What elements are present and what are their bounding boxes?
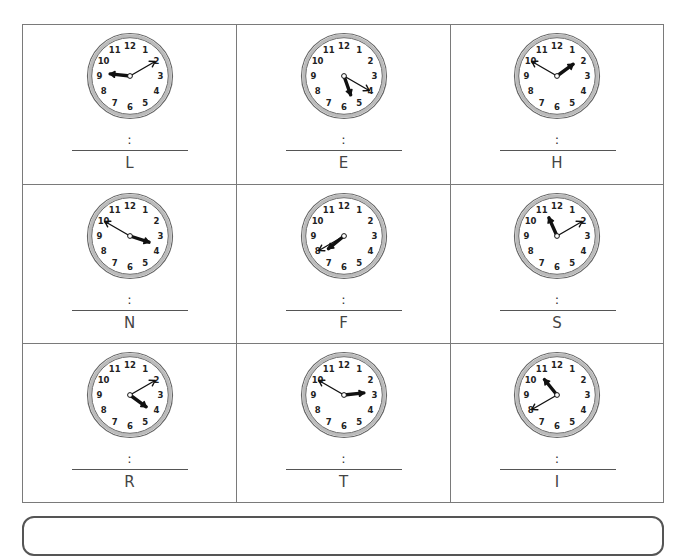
dial-number: 7: [111, 258, 117, 268]
dial-number: 12: [551, 360, 563, 370]
dial-number: 2: [580, 56, 586, 66]
answer-line[interactable]: [72, 310, 188, 311]
dial-number: 5: [356, 258, 362, 268]
clock-letter: L: [23, 154, 236, 172]
clock-cell: 121234567891011 : S: [451, 185, 663, 344]
answer-line[interactable]: [72, 469, 188, 470]
dial-number: 4: [153, 405, 159, 415]
dial-number: 10: [311, 56, 323, 66]
dial-number: 4: [153, 246, 159, 256]
answer-line[interactable]: [500, 469, 616, 470]
clock-face: 121234567891011: [300, 32, 388, 120]
dial-number: 12: [124, 41, 136, 51]
dial-number: 3: [371, 390, 377, 400]
dial-number: 8: [528, 246, 534, 256]
dial-number: 9: [524, 231, 530, 241]
dial-number: 11: [322, 205, 334, 215]
dial-number: 11: [322, 364, 334, 374]
time-separator: :: [237, 133, 450, 147]
clock-face: 121234567891011: [86, 32, 174, 120]
dial-number: 9: [524, 390, 530, 400]
dial-number: 5: [569, 98, 575, 108]
clock-cell: 121234567891011 : R: [23, 344, 237, 502]
time-separator: :: [23, 452, 236, 466]
dial-number: 6: [554, 102, 560, 112]
clock-face: 121234567891011: [513, 32, 601, 120]
clock-letter: F: [237, 314, 450, 332]
dial-number: 7: [325, 258, 331, 268]
dial-number: 6: [341, 421, 347, 431]
dial-number: 8: [100, 405, 106, 415]
dial-number: 3: [371, 231, 377, 241]
dial-number: 7: [111, 98, 117, 108]
dial-number: 5: [569, 417, 575, 427]
clock-face: 121234567891011: [300, 192, 388, 280]
dial-number: 3: [157, 231, 163, 241]
dial-number: 12: [338, 201, 350, 211]
dial-number: 10: [525, 216, 537, 226]
dial-number: 5: [142, 417, 148, 427]
dial-number: 3: [371, 71, 377, 81]
dial-number: 12: [124, 201, 136, 211]
dial-number: 2: [580, 375, 586, 385]
answer-box: [22, 516, 664, 556]
dial-number: 10: [311, 216, 323, 226]
dial-number: 6: [127, 421, 133, 431]
clock-cell: 121234567891011 : E: [237, 25, 451, 185]
dial-number: 6: [554, 262, 560, 272]
dial-number: 5: [142, 258, 148, 268]
clock-face: 121234567891011: [86, 351, 174, 439]
dial-number: 12: [338, 360, 350, 370]
answer-line[interactable]: [286, 150, 402, 151]
time-separator: :: [23, 293, 236, 307]
time-separator: :: [237, 452, 450, 466]
answer-line[interactable]: [500, 150, 616, 151]
dial-number: 11: [536, 45, 548, 55]
dial-number: 9: [524, 71, 530, 81]
dial-number: 1: [569, 364, 575, 374]
clock-cell: 121234567891011 : L: [23, 25, 237, 185]
clock-letter: N: [23, 314, 236, 332]
dial-number: 6: [127, 262, 133, 272]
clock-letter: R: [23, 473, 236, 491]
dial-number: 8: [100, 86, 106, 96]
dial-number: 8: [314, 405, 320, 415]
dial-number: 6: [127, 102, 133, 112]
dial-number: 11: [108, 364, 120, 374]
dial-number: 3: [585, 231, 591, 241]
clock-cell: 121234567891011 : F: [237, 185, 451, 344]
clock-letter: I: [451, 473, 663, 491]
dial-number: 2: [367, 216, 373, 226]
clock-cell: 121234567891011 : N: [23, 185, 237, 344]
answer-line[interactable]: [72, 150, 188, 151]
dial-number: 3: [157, 71, 163, 81]
dial-number: 1: [356, 364, 362, 374]
dial-number: 6: [341, 102, 347, 112]
dial-number: 2: [367, 375, 373, 385]
dial-number: 6: [341, 262, 347, 272]
answer-line[interactable]: [286, 310, 402, 311]
answer-line[interactable]: [500, 310, 616, 311]
dial-number: 10: [97, 56, 109, 66]
dial-number: 9: [96, 231, 102, 241]
dial-number: 11: [108, 205, 120, 215]
clock-letter: H: [451, 154, 663, 172]
dial-number: 1: [569, 45, 575, 55]
dial-number: 1: [142, 205, 148, 215]
dial-number: 10: [525, 375, 537, 385]
dial-number: 1: [142, 45, 148, 55]
answer-line[interactable]: [286, 469, 402, 470]
dial-number: 5: [142, 98, 148, 108]
clock-cell: 121234567891011 : T: [237, 344, 451, 502]
dial-number: 1: [142, 364, 148, 374]
dial-number: 5: [356, 98, 362, 108]
dial-number: 9: [310, 71, 316, 81]
dial-number: 4: [153, 86, 159, 96]
dial-number: 1: [356, 205, 362, 215]
dial-number: 3: [585, 390, 591, 400]
dial-number: 6: [554, 421, 560, 431]
dial-number: 7: [539, 258, 545, 268]
dial-number: 5: [569, 258, 575, 268]
dial-number: 2: [367, 56, 373, 66]
dial-number: 7: [539, 98, 545, 108]
